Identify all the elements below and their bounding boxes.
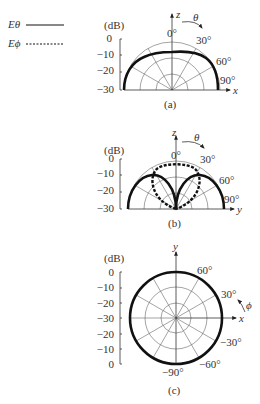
chart-c-angle-neg30: −30°	[220, 336, 242, 348]
chart-a-sweep: θ	[193, 11, 199, 23]
chart-a-db-scale	[120, 39, 122, 90]
chart-a-unit: (dB)	[104, 19, 125, 32]
chart-c-rtick-3: −30	[97, 312, 115, 324]
chart-b-sweep: θ	[194, 131, 200, 143]
chart-b-db-scale	[120, 159, 122, 209]
chart-c-angle-60: 60°	[197, 264, 212, 276]
chart-a-rtick-3: −30	[97, 83, 115, 95]
chart-c-rtick-5: −10	[97, 343, 115, 355]
chart-c-sweep: ϕ	[246, 299, 252, 311]
chart-c-angle-neg90: −90°	[162, 366, 184, 378]
chart-b-angle-0: 0°	[171, 149, 181, 161]
chart-b-rtick-3: −30	[97, 202, 115, 214]
chart-c-caption: (c)	[168, 384, 181, 397]
chart-c-axis-right: x	[238, 312, 244, 324]
chart-b-rtick-1: −10	[97, 167, 115, 179]
chart-c-angle-neg60: −60°	[199, 358, 221, 370]
chart-b-unit: (dB)	[104, 144, 125, 157]
chart-a-angle-0: 0°	[167, 27, 177, 39]
chart-a-angle-30: 30°	[196, 34, 211, 46]
legend-label-ephi: Eϕ	[7, 37, 21, 49]
chart-c-angle-30: 30°	[221, 288, 236, 300]
chart-a-rtick-1: −10	[97, 48, 115, 60]
chart-c-rtick-4: −20	[97, 328, 115, 340]
chart-a-rtick-2: −20	[97, 64, 115, 76]
chart-a-etheta-curve	[124, 52, 218, 90]
chart-c-axis-up: y	[172, 240, 178, 252]
chart-a-angle-90: 90°	[220, 74, 235, 86]
chart-b-axis-up: z	[171, 126, 177, 138]
chart-a-angle-60: 60°	[216, 55, 231, 67]
chart-b: (dB) 0 −10 −20 −30 z y θ 0° 30° 60° 90° …	[97, 126, 242, 230]
chart-b-caption: (b)	[168, 217, 181, 230]
chart-a-axis-up: z	[175, 8, 181, 20]
legend: Eθ Eϕ	[7, 18, 64, 49]
chart-c: (dB) 0 −10 −20 −30 −20 −10 0 y x ϕ 60° 3…	[97, 240, 252, 397]
chart-a-caption: (a)	[164, 98, 177, 111]
chart-c-rtick-0: 0	[109, 266, 115, 278]
chart-c-rtick-1: −10	[97, 281, 115, 293]
chart-b-etheta-right-lobe	[176, 175, 224, 209]
chart-b-rtick-2: −20	[97, 184, 115, 196]
chart-c-unit: (dB)	[104, 252, 125, 265]
chart-a-rtick-0: 0	[107, 32, 113, 44]
chart-b-angle-60: 60°	[219, 174, 234, 186]
legend-label-etheta: Eθ	[7, 18, 21, 30]
figure-canvas: Eθ Eϕ (dB) 0 −10 −20 −30 z x θ 0° 30° 60…	[0, 0, 260, 404]
chart-b-angle-90: 90°	[224, 193, 239, 205]
chart-b-rtick-0: 0	[109, 152, 115, 164]
chart-c-rtick-2: −20	[97, 297, 115, 309]
chart-a: (dB) 0 −10 −20 −30 z x θ 0° 30° 60° 90° …	[97, 8, 238, 111]
chart-b-angle-30: 30°	[200, 153, 215, 165]
chart-c-rtick-6: 0	[109, 358, 115, 370]
